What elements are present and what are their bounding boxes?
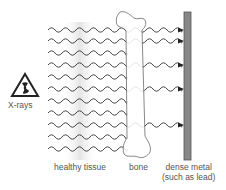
bone-shape	[116, 12, 150, 158]
dense-metal-label: dense metal (such as lead)	[162, 162, 215, 182]
dense-metal-label-line2: (such as lead)	[162, 172, 215, 182]
bone-label: bone	[129, 162, 148, 172]
dense-metal-bar	[184, 12, 191, 160]
radiation-warning-icon	[12, 74, 38, 96]
dense-metal-label-line1: dense metal	[162, 162, 215, 172]
healthy-tissue-region	[62, 22, 98, 160]
healthy-tissue-label: healthy tissue	[54, 162, 106, 172]
xrays-label: X-rays	[8, 100, 33, 110]
